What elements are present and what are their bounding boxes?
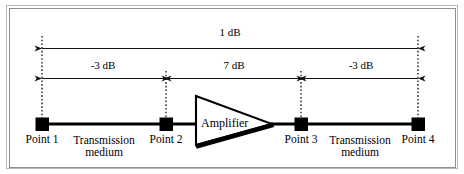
transmission-medium-left-line1: Transmission xyxy=(73,134,135,146)
point-2-label: Point 2 xyxy=(150,134,183,145)
point-marker-2 xyxy=(160,118,174,132)
transmission-medium-right-line1: Transmission xyxy=(329,134,391,146)
point-marker-4 xyxy=(412,118,426,132)
transmission-medium-right-line2: medium xyxy=(329,146,391,158)
segment-3-gain-label: -3 dB xyxy=(349,60,374,71)
point-4-label: Point 4 xyxy=(402,134,435,145)
point-1-label: Point 1 xyxy=(26,134,59,145)
transmission-medium-left: Transmission medium xyxy=(73,134,135,158)
overall-gain-label: 1 dB xyxy=(219,27,240,38)
point-marker-3 xyxy=(295,118,309,132)
transmission-medium-left-line2: medium xyxy=(73,146,135,158)
segment-1-gain-label: -3 dB xyxy=(91,60,116,71)
segment-2-gain-label: 7 dB xyxy=(223,60,244,71)
transmission-medium-right: Transmission medium xyxy=(329,134,391,158)
point-3-label: Point 3 xyxy=(285,134,318,145)
amplifier-label: Amplifier xyxy=(201,118,248,129)
point-marker-1 xyxy=(36,118,50,132)
figure-container: 1 dB -3 dB 7 dB -3 dB Amplifier Point 1 … xyxy=(0,0,464,174)
